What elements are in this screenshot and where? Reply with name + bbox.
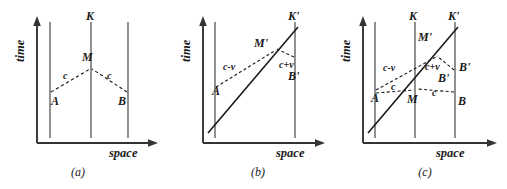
panel-b-label-A: A: [211, 84, 220, 98]
panel-c: time space K K' M' M A B B' B' c-v c+v c…: [339, 9, 497, 179]
space-axis-arrowhead: [315, 139, 325, 147]
figure-canvas: time space K M A B c c (a) time: [0, 0, 507, 189]
panel-a-caption: (a): [71, 165, 85, 179]
time-axis-arrowhead: [33, 16, 41, 26]
panel-a-space-axis-label: space: [108, 146, 138, 160]
panel-b-worldline-K-prime: [208, 27, 298, 133]
space-axis-arrowhead: [148, 139, 158, 147]
spacetime-diagram-figure: time space K M A B c c (a) time: [0, 0, 507, 189]
panel-a: time space K M A B c c (a): [13, 9, 158, 179]
panel-c-space-axis: [363, 139, 497, 147]
panel-a-time-axis: [33, 16, 41, 143]
panel-b-label-c-plus-v: c+v: [279, 59, 294, 70]
panel-c-label-M-prime: M': [417, 30, 433, 44]
panel-c-time-axis: [359, 16, 367, 143]
panel-c-label-c-right: c: [432, 87, 437, 98]
panel-b-time-axis-label: time: [179, 39, 193, 62]
panel-b-space-axis-label: space: [275, 146, 305, 160]
panel-b-time-axis: [199, 16, 207, 143]
panel-b-light-ray-Bprime-to-Mprime: [277, 49, 294, 57]
panel-b-label-K-prime: K': [287, 9, 300, 23]
panel-b-label-M-prime: M': [253, 36, 269, 50]
panel-a-light-ray-A-to-M: [51, 69, 90, 92]
time-axis-arrowhead: [359, 16, 367, 26]
panel-b-space-axis: [203, 139, 325, 147]
space-axis-arrowhead: [487, 139, 497, 147]
panel-c-label-c-left: c: [391, 81, 396, 92]
panel-c-label-K: K: [408, 9, 418, 23]
panel-c-label-K-prime: K': [447, 9, 460, 23]
panel-c-label-A: A: [370, 91, 379, 105]
panel-c-label-M: M: [406, 92, 418, 106]
panel-b-caption: (b): [251, 165, 265, 179]
panel-c-caption: (c): [418, 165, 431, 179]
panel-a-label-c-right: c: [107, 70, 112, 81]
panel-c-label-B-prime-outer: B': [458, 60, 471, 74]
panel-c-time-axis-label: time: [339, 39, 353, 62]
panel-a-label-M: M: [81, 50, 93, 64]
panel-a-label-c-left: c: [63, 70, 68, 81]
panel-c-label-B: B: [457, 94, 466, 108]
panel-a-space-axis: [37, 139, 158, 147]
panel-b-label-c-minus-v: c-v: [223, 61, 236, 72]
panel-a-label-K: K: [85, 9, 95, 23]
panel-a-time-axis-label: time: [13, 39, 27, 62]
panel-a-label-B: B: [117, 94, 126, 108]
panel-c-space-axis-label: space: [435, 146, 465, 160]
panel-b-label-B-prime: B': [287, 69, 300, 83]
panel-c-label-B-prime-inner: B': [437, 71, 450, 85]
panel-b: time space K' M' A B' c-v c+v (b): [179, 9, 325, 179]
time-axis-arrowhead: [199, 16, 207, 26]
panel-c-label-c-plus-v: c+v: [425, 61, 440, 72]
panel-a-label-A: A: [50, 94, 59, 108]
panel-c-label-c-minus-v: c-v: [383, 62, 396, 73]
